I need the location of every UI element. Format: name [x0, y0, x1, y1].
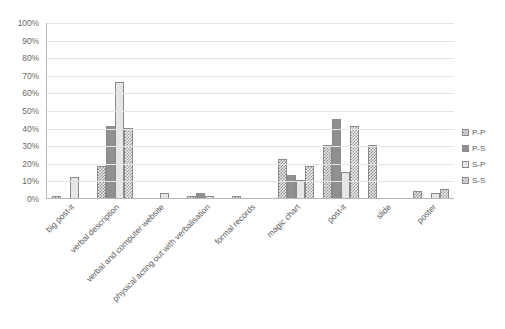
x-axis-tick-label: big post-it: [43, 202, 75, 234]
gridline: [47, 23, 454, 24]
legend-item-s-s[interactable]: S-S: [462, 176, 504, 185]
legend-label: P-S: [472, 144, 485, 153]
x-axis-label-cell: poster: [409, 200, 454, 320]
legend-item-p-p[interactable]: P-P: [462, 128, 504, 137]
x-axis-label-cell: magic chart: [273, 200, 318, 320]
bar: [431, 193, 440, 198]
y-axis-tick-label: 20%: [22, 159, 39, 169]
y-axis-tick-label: 40%: [22, 124, 39, 134]
x-axis-tick-label: poster: [415, 202, 438, 225]
legend-swatch-icon: [462, 161, 469, 168]
legend-label: S-P: [472, 160, 485, 169]
legend-label: P-P: [472, 128, 485, 137]
bar: [196, 193, 205, 198]
bar: [278, 159, 287, 198]
gridline: [47, 146, 454, 147]
bar: [323, 145, 332, 198]
y-axis-tick-label: 30%: [22, 141, 39, 151]
gridline: [47, 181, 454, 182]
gridline: [47, 164, 454, 165]
bar: [106, 126, 115, 198]
x-axis-labels: big post-itverbal descriptionverbal and …: [46, 200, 454, 320]
gridline: [47, 41, 454, 42]
bar: [205, 196, 214, 198]
x-axis-tick-label: post-it: [325, 202, 348, 225]
x-axis-tick-label: slide: [374, 202, 393, 221]
x-axis-label-cell: post-it: [318, 200, 363, 320]
bar: [341, 172, 350, 198]
y-axis-tick-label: 90%: [22, 36, 39, 46]
x-axis-label-cell: slide: [363, 200, 408, 320]
legend-item-p-s[interactable]: P-S: [462, 144, 504, 153]
x-axis-label-cell: formal records: [227, 200, 272, 320]
bar: [368, 145, 377, 198]
bar: [296, 180, 305, 198]
y-axis: 0%10%20%30%40%50%60%70%80%90%100%: [0, 23, 44, 199]
y-axis-tick-label: 10%: [22, 176, 39, 186]
bar: [232, 196, 241, 198]
bar: [287, 175, 296, 198]
bar: [70, 177, 79, 198]
bar: [440, 189, 449, 198]
y-axis-tick-label: 80%: [22, 53, 39, 63]
gridline: [47, 129, 454, 130]
legend-swatch-icon: [462, 177, 469, 184]
chart-legend: P-PP-SS-PS-S: [462, 128, 504, 185]
y-axis-tick-label: 100%: [18, 18, 39, 28]
y-axis-tick-label: 60%: [22, 88, 39, 98]
bar: [187, 196, 196, 198]
legend-item-s-p[interactable]: S-P: [462, 160, 504, 169]
gridline: [47, 76, 454, 77]
x-axis-label-cell: physical acting out with verbalisation: [182, 200, 227, 320]
legend-swatch-icon: [462, 129, 469, 136]
bar: [413, 191, 422, 198]
bar-chart: 0%10%20%30%40%50%60%70%80%90%100% big po…: [0, 0, 505, 329]
legend-swatch-icon: [462, 145, 469, 152]
legend-label: S-S: [472, 176, 485, 185]
bar: [160, 193, 169, 198]
bar: [124, 128, 133, 198]
x-axis-label-cell: big post-it: [46, 200, 91, 320]
gridline: [47, 58, 454, 59]
plot-area: [46, 23, 454, 199]
gridline: [47, 111, 454, 112]
gridline: [47, 93, 454, 94]
y-axis-tick-label: 0%: [27, 194, 39, 204]
y-axis-tick-label: 50%: [22, 106, 39, 116]
y-axis-tick-label: 70%: [22, 71, 39, 81]
bar: [52, 196, 61, 198]
bar: [332, 119, 341, 198]
bar: [350, 126, 359, 198]
